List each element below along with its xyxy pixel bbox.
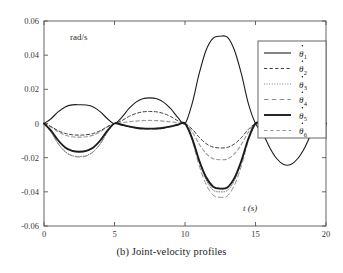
x-tick-label-0: 0 xyxy=(42,229,46,239)
legend-theta-dot-1-dot-accent xyxy=(302,45,304,47)
x-tick-label-1: 5 xyxy=(112,229,116,239)
y-tick-label-0: 0.06 xyxy=(24,16,39,26)
legend-theta-dot-4-dot-accent xyxy=(302,92,304,94)
x-tick-label-2: 10 xyxy=(181,229,190,239)
figure-container: 051015200.060.040.020-0.02-0.04-0.06rad/… xyxy=(0,0,343,273)
legend-theta-dot-5-dot-accent xyxy=(302,107,304,109)
legend-theta-dot-6-dot-accent xyxy=(302,123,304,125)
x-tick-label-4: 20 xyxy=(322,229,331,239)
legend: θ1θ2θ3θ4θ5θ6 xyxy=(258,41,326,138)
y-tick-label-6: -0.06 xyxy=(21,221,39,231)
y-tick-label-3: 0 xyxy=(35,119,39,129)
x-axis-label: t (s) xyxy=(243,203,257,213)
x-tick-label-3: 15 xyxy=(251,229,260,239)
figure-caption: (b) Joint-velocity profiles xyxy=(0,246,343,257)
y-axis-unit-label: rad/s xyxy=(70,32,88,42)
y-tick-label-4: -0.02 xyxy=(21,153,39,163)
y-tick-label-5: -0.04 xyxy=(21,187,39,197)
legend-box xyxy=(258,41,326,138)
legend-theta-dot-3-dot-accent xyxy=(302,76,304,78)
legend-theta-dot-2-dot-accent xyxy=(302,61,304,63)
y-tick-label-2: 0.02 xyxy=(24,84,39,94)
y-tick-label-1: 0.04 xyxy=(24,50,40,60)
joint-velocity-chart: 051015200.060.040.020-0.02-0.04-0.06rad/… xyxy=(0,0,343,273)
